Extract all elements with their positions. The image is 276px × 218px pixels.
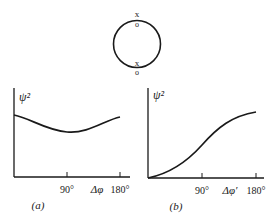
chart-a-tick-label-90: 90°: [60, 184, 74, 195]
chart-a-xlabel: Δφ: [90, 183, 104, 195]
chart-b-panel-label: (b): [170, 200, 183, 213]
chart-a-tick-label-180: 180°: [111, 184, 130, 195]
bottom-o-marker: o: [135, 68, 139, 77]
chart-a-panel-label: (a): [32, 199, 45, 212]
circle-diagram: x o x o: [114, 9, 161, 77]
chart-b-ylabel: ψ²: [153, 88, 164, 102]
chart-b-xlabel: Δφ′: [222, 184, 239, 196]
top-x-marker: x: [135, 9, 140, 19]
chart-a: ψ² 90° Δφ 180° (a): [14, 88, 130, 212]
bottom-x-marker: x: [135, 58, 140, 68]
chart-b: ψ² 90° Δφ′ 180° (b): [148, 88, 266, 213]
top-o-marker: o: [135, 20, 139, 29]
chart-a-ylabel: ψ²: [19, 90, 30, 104]
figure: x o x o ψ² 90° Δφ 180° (a) ψ² 90° Δφ′ 18…: [0, 0, 276, 218]
chart-b-tick-label-180: 180°: [247, 185, 266, 196]
chart-a-curve: [14, 115, 120, 132]
chart-b-curve: [148, 112, 256, 178]
chart-b-tick-label-90: 90°: [195, 185, 209, 196]
